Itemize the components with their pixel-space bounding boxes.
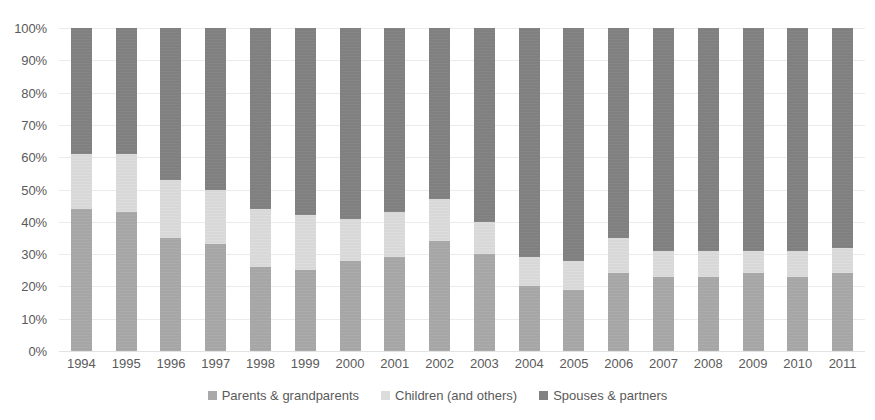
- bar-segment[interactable]: [340, 261, 361, 351]
- bar-column[interactable]: [384, 28, 405, 351]
- bar-segment[interactable]: [71, 209, 92, 351]
- bar-column[interactable]: [563, 28, 584, 351]
- chart-legend: Parents & grandparentsChildren (and othe…: [0, 388, 875, 403]
- x-axis: 1994199519961997199819992000200120022003…: [59, 353, 865, 375]
- bar-segment[interactable]: [743, 273, 764, 351]
- bar-segment[interactable]: [563, 28, 584, 261]
- legend-item[interactable]: Children (and others): [381, 388, 517, 403]
- bar-segment[interactable]: [787, 277, 808, 351]
- bar-segment[interactable]: [519, 257, 540, 286]
- y-axis-tick-label: 10%: [21, 312, 47, 325]
- bar-segment[interactable]: [205, 28, 226, 190]
- x-axis-tick-label: 2003: [470, 356, 499, 371]
- y-axis-tick-label: 50%: [21, 183, 47, 196]
- bar-segment[interactable]: [295, 28, 316, 215]
- bar-segment[interactable]: [116, 154, 137, 212]
- bar-segment[interactable]: [429, 241, 450, 351]
- x-axis-tick-label: 2008: [694, 356, 723, 371]
- bar-segment[interactable]: [832, 248, 853, 274]
- stacked-bar-chart: 0%10%20%30%40%50%60%70%80%90%100% 199419…: [0, 0, 875, 420]
- bar-segment[interactable]: [250, 267, 271, 351]
- bar-column[interactable]: [519, 28, 540, 351]
- bar-segment[interactable]: [787, 28, 808, 251]
- y-axis-tick-label: 40%: [21, 215, 47, 228]
- bar-segment[interactable]: [160, 180, 181, 238]
- bar-segment[interactable]: [563, 261, 584, 290]
- bar-column[interactable]: [295, 28, 316, 351]
- bar-segment[interactable]: [608, 238, 629, 274]
- bar-column[interactable]: [250, 28, 271, 351]
- bar-segment[interactable]: [743, 251, 764, 274]
- bar-segment[interactable]: [519, 28, 540, 257]
- x-axis-tick-label: 2002: [425, 356, 454, 371]
- bar-segment[interactable]: [116, 212, 137, 351]
- bar-segment[interactable]: [698, 28, 719, 251]
- legend-swatch-icon: [381, 391, 390, 400]
- bar-column[interactable]: [653, 28, 674, 351]
- bar-segment[interactable]: [474, 28, 495, 222]
- bar-segment[interactable]: [429, 28, 450, 199]
- bar-segment[interactable]: [474, 222, 495, 254]
- x-axis-tick-label: 2006: [604, 356, 633, 371]
- bar-column[interactable]: [832, 28, 853, 351]
- bar-segment[interactable]: [250, 209, 271, 267]
- bar-column[interactable]: [474, 28, 495, 351]
- bar-segment[interactable]: [384, 257, 405, 351]
- bar-segment[interactable]: [653, 277, 674, 351]
- bar-column[interactable]: [340, 28, 361, 351]
- bar-segment[interactable]: [653, 251, 674, 277]
- x-axis-tick-label: 1996: [156, 356, 185, 371]
- bar-segment[interactable]: [295, 215, 316, 270]
- bar-segment[interactable]: [340, 28, 361, 219]
- bar-segment[interactable]: [519, 286, 540, 351]
- bar-segment[interactable]: [160, 238, 181, 351]
- y-axis-tick-label: 70%: [21, 118, 47, 131]
- bar-segment[interactable]: [832, 273, 853, 351]
- bar-segment[interactable]: [743, 28, 764, 251]
- bar-segment[interactable]: [608, 28, 629, 238]
- bar-column[interactable]: [71, 28, 92, 351]
- bar-column[interactable]: [608, 28, 629, 351]
- bar-segment[interactable]: [71, 154, 92, 209]
- bar-segment[interactable]: [205, 190, 226, 245]
- bar-segment[interactable]: [608, 273, 629, 351]
- y-axis-tick-label: 80%: [21, 86, 47, 99]
- bar-segment[interactable]: [384, 28, 405, 212]
- x-axis-tick-label: 1998: [246, 356, 275, 371]
- legend-item[interactable]: Spouses & partners: [539, 388, 667, 403]
- bar-segment[interactable]: [250, 28, 271, 209]
- legend-label: Children (and others): [395, 388, 517, 403]
- bar-segment[interactable]: [160, 28, 181, 180]
- legend-label: Parents & grandparents: [222, 388, 359, 403]
- y-axis-tick-label: 90%: [21, 54, 47, 67]
- bar-segment[interactable]: [205, 244, 226, 351]
- bar-column[interactable]: [116, 28, 137, 351]
- bar-column[interactable]: [160, 28, 181, 351]
- bar-segment[interactable]: [563, 290, 584, 351]
- y-axis-tick-label: 60%: [21, 151, 47, 164]
- y-axis-tick-label: 20%: [21, 280, 47, 293]
- bar-segment[interactable]: [71, 28, 92, 154]
- legend-swatch-icon: [208, 391, 217, 400]
- bar-column[interactable]: [698, 28, 719, 351]
- bar-segment[interactable]: [653, 28, 674, 251]
- bar-segment[interactable]: [698, 251, 719, 277]
- x-axis-tick-label: 2007: [649, 356, 678, 371]
- bar-segment[interactable]: [295, 270, 316, 351]
- bar-segment[interactable]: [698, 277, 719, 351]
- bar-segment[interactable]: [384, 212, 405, 257]
- bar-column[interactable]: [743, 28, 764, 351]
- x-axis-tick-label: 1994: [67, 356, 96, 371]
- bar-segment[interactable]: [340, 219, 361, 261]
- legend-item[interactable]: Parents & grandparents: [208, 388, 359, 403]
- bar-column[interactable]: [787, 28, 808, 351]
- bar-segment[interactable]: [429, 199, 450, 241]
- x-axis-tick-label: 2001: [380, 356, 409, 371]
- bar-column[interactable]: [429, 28, 450, 351]
- bar-segment[interactable]: [832, 28, 853, 248]
- bar-segment[interactable]: [474, 254, 495, 351]
- x-axis-tick-label: 2005: [559, 356, 588, 371]
- bar-segment[interactable]: [116, 28, 137, 154]
- bar-segment[interactable]: [787, 251, 808, 277]
- bar-column[interactable]: [205, 28, 226, 351]
